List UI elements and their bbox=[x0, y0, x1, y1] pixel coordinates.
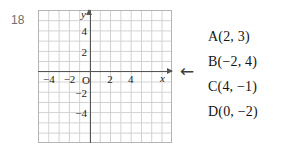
x-axis-arrow-icon bbox=[167, 68, 173, 74]
coordinate-list: A(2, 3) B(−2, 4) C(4, −1) D(0, −2) bbox=[208, 24, 288, 124]
list-item: D(0, −2) bbox=[208, 99, 288, 124]
list-item: A(2, 3) bbox=[208, 24, 288, 49]
coordinate-grid-figure: x y O −4 −2 2 4 4 2 −2 −4 bbox=[38, 10, 172, 143]
x-axis bbox=[38, 71, 172, 72]
list-item: B(−2, 4) bbox=[208, 49, 288, 74]
list-item: C(4, −1) bbox=[208, 74, 288, 99]
left-arrow-icon: ← bbox=[180, 63, 194, 80]
grid-lines bbox=[38, 10, 172, 143]
x-tick-label-2: 2 bbox=[107, 74, 113, 85]
x-tick-label-4: 4 bbox=[128, 74, 134, 85]
origin-label: O bbox=[82, 74, 90, 86]
problem-number: 18 bbox=[11, 13, 25, 27]
x-axis-label: x bbox=[160, 72, 165, 84]
y-tick-label-4: 4 bbox=[77, 26, 87, 37]
y-tick-label-2: 2 bbox=[77, 46, 87, 57]
y-tick-label-minus2: −2 bbox=[71, 87, 87, 98]
x-tick-label-minus4: −4 bbox=[43, 74, 55, 85]
y-tick-label-minus4: −4 bbox=[71, 108, 87, 119]
x-tick-label-minus2: −2 bbox=[64, 74, 76, 85]
y-axis-label: y bbox=[81, 8, 86, 20]
y-axis-arrow-icon bbox=[86, 9, 92, 15]
